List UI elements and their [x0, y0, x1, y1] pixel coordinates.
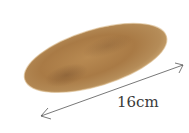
dimension-label: 16cm [117, 93, 159, 111]
product-image: 16cm [0, 0, 189, 133]
bread-roll-illustration [0, 0, 189, 133]
bread-roll [17, 10, 175, 107]
